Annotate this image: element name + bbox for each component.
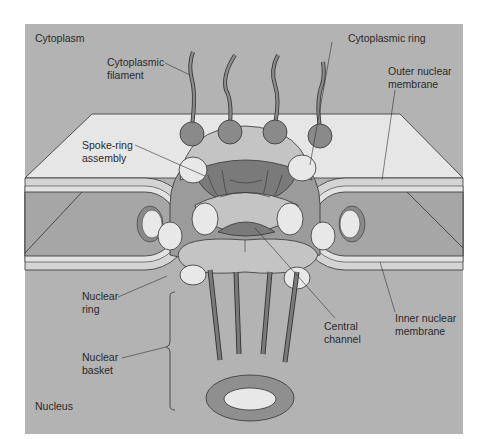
label-nuclear-ring-1: Nuclear [82,290,119,302]
label-inner-nuclear-membrane-1: Inner nuclear [395,312,457,324]
label-nuclear-basket-2: basket [82,364,113,376]
region-label-cytoplasm: Cytoplasm [35,32,85,44]
label-inner-nuclear-membrane-2: membrane [395,325,445,337]
label-outer-nuclear-membrane-1: Outer nuclear [388,65,452,77]
label-nuclear-ring-2: ring [82,303,100,315]
nuclear-pore-diagram: Cytoplasm Nucleus Cytoplasmic filament C… [0,0,487,439]
label-spoke-ring-assembly-2: assembly [82,152,127,164]
label-spoke-ring-assembly-1: Spoke-ring [82,139,133,151]
region-label-nucleus: Nucleus [35,400,73,412]
label-cytoplasmic-filament-1: Cytoplasmic [107,56,164,68]
label-central-channel-2: channel [324,333,361,345]
label-cytoplasmic-ring: Cytoplasmic ring [348,32,426,44]
label-cytoplasmic-filament-2: filament [107,69,144,81]
label-nuclear-basket-1: Nuclear [82,351,119,363]
label-outer-nuclear-membrane-2: membrane [388,78,438,90]
label-central-channel-1: Central [324,320,358,332]
